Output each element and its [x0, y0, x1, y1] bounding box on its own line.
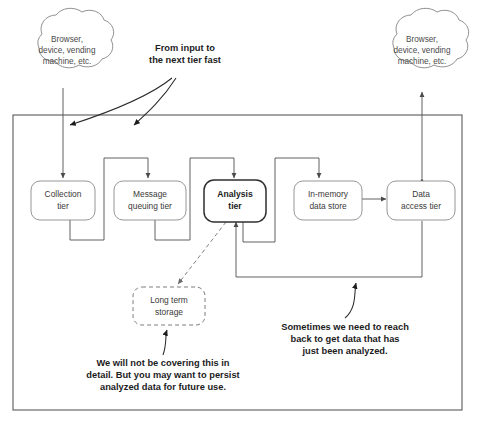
- data-access-tier[interactable]: Data access tier: [387, 181, 455, 220]
- long-term-storage-note: We will not be covering this in detail. …: [86, 358, 239, 392]
- analysis-tier[interactable]: Analysis tier: [204, 180, 266, 222]
- flow-analysis-to-long-term-storage: [178, 222, 226, 284]
- left-client-cloud: Browser, device, vending machine, etc.: [38, 8, 114, 67]
- in-memory-data-store-line-2: data store: [309, 201, 347, 211]
- right-cloud-line-1: Browser,: [406, 35, 438, 44]
- input-speed-note: From input to the next tier fast: [149, 43, 221, 65]
- message-queuing-tier-line-2: queuing tier: [128, 201, 172, 211]
- leader-reach-back-note: [345, 283, 356, 318]
- architecture-diagram: Browser, device, vending machine, etc. B…: [0, 0, 478, 424]
- flow-data-access-feedback-to-analysis: [236, 221, 422, 277]
- left-cloud-line-2: device, vending: [39, 46, 96, 55]
- collection-tier-line-2: tier: [57, 201, 69, 211]
- left-cloud-line-3: machine, etc.: [43, 57, 92, 66]
- diagram-canvas: Browser, device, vending machine, etc. B…: [0, 0, 478, 424]
- message-queuing-tier-line-1: Message: [133, 189, 167, 199]
- data-access-tier-line-2: access tier: [401, 201, 441, 211]
- long-term-storage[interactable]: Long term storage: [133, 287, 205, 325]
- storage-note-line-1: We will not be covering this in: [96, 358, 229, 368]
- reach-back-note-line-3: just been analyzed.: [301, 346, 387, 356]
- in-memory-data-store-line-1: In-memory: [308, 189, 349, 199]
- collection-tier-line-1: Collection: [45, 189, 82, 199]
- storage-note-line-3: analyzed data for future use.: [100, 382, 226, 392]
- message-queuing-tier[interactable]: Message queuing tier: [114, 181, 186, 220]
- data-access-tier-line-1: Data: [412, 189, 430, 199]
- leader-input-note-to-queue: [134, 78, 176, 125]
- left-cloud-line-1: Browser,: [51, 35, 83, 44]
- reach-back-note-line-2: back to get data that has: [290, 334, 399, 344]
- reach-back-note: Sometimes we need to reach back to get d…: [281, 322, 409, 356]
- analysis-tier-line-1: Analysis: [217, 189, 253, 199]
- reach-back-note-line-1: Sometimes we need to reach: [281, 322, 409, 332]
- in-memory-data-store[interactable]: In-memory data store: [294, 181, 362, 220]
- leader-storage-note: [163, 330, 167, 355]
- storage-note-line-2: detail. But you may want to persist: [86, 370, 239, 380]
- input-speed-note-line-1: From input to: [155, 43, 215, 53]
- right-cloud-line-2: device, vending: [394, 46, 451, 55]
- long-term-storage-line-1: Long term: [150, 295, 188, 305]
- collection-tier[interactable]: Collection tier: [31, 181, 95, 220]
- leader-input-note-to-collection: [70, 78, 172, 125]
- long-term-storage-line-2: storage: [155, 307, 183, 317]
- right-cloud-line-3: machine, etc.: [398, 57, 447, 66]
- system-boundary-frame: [13, 115, 462, 410]
- right-client-cloud: Browser, device, vending machine, etc.: [393, 8, 469, 67]
- analysis-tier-line-2: tier: [228, 201, 242, 211]
- input-speed-note-line-2: the next tier fast: [149, 55, 221, 65]
